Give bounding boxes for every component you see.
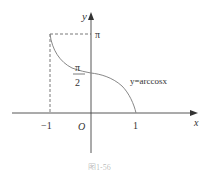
one-tick-label: 1 [133,120,138,131]
origin-label: O [78,121,85,132]
arccos-curve [50,34,136,113]
y-axis-label: y [81,10,87,22]
x-axis-arrow-icon [190,110,198,116]
neg-one-tick-label: −1 [41,120,52,131]
x-axis-label: x [193,117,199,128]
function-label: y=arccosx [130,76,168,86]
figure-caption: 图1-56 [88,163,111,170]
y-axis-arrow-icon [88,12,94,20]
pi-tick-label: π [95,29,100,40]
half-pi-numerator: π [75,62,80,73]
arccos-graph: y x π π 2 y=arccosx −1 O 1 图1-56 [0,0,205,170]
half-pi-denominator: 2 [75,77,80,88]
